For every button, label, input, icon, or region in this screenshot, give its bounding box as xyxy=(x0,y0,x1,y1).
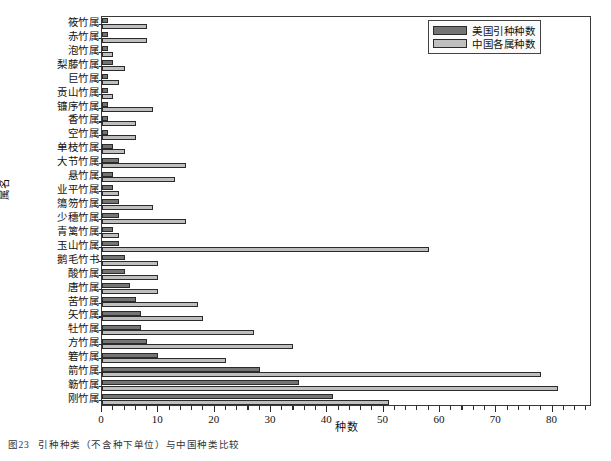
legend-entry-1: 中国各属种数 xyxy=(433,37,535,50)
y-axis-tick xyxy=(99,289,103,290)
bar-series-china xyxy=(102,24,147,29)
y-axis-tick xyxy=(99,400,103,401)
bar-series-us xyxy=(102,18,108,23)
y-axis-tick xyxy=(99,94,103,95)
x-axis-minor-tick xyxy=(202,406,203,410)
bar-series-china xyxy=(102,261,158,266)
bar-series-us xyxy=(102,311,141,316)
bar-series-china xyxy=(102,94,113,99)
x-axis-minor-tick xyxy=(484,406,485,410)
bar-series-china xyxy=(102,135,136,140)
bar-series-us xyxy=(102,325,141,330)
y-axis-category-label: 空竹属 xyxy=(4,128,99,139)
x-axis-minor-tick xyxy=(247,406,248,410)
y-axis-category-label: 镰序竹属 xyxy=(4,101,99,112)
bar-series-china xyxy=(102,205,153,210)
x-axis-minor-tick xyxy=(461,406,462,410)
y-axis-tick xyxy=(99,247,103,248)
bar-series-us xyxy=(102,380,299,385)
y-axis-tick xyxy=(99,303,103,304)
y-axis-category-label: 少穗竹属 xyxy=(4,212,99,223)
x-axis-minor-tick xyxy=(146,406,147,410)
y-axis-tick xyxy=(99,219,103,220)
bar-series-us xyxy=(102,60,113,65)
x-axis-minor-tick xyxy=(259,406,260,410)
y-axis-category-label: 青篱竹属 xyxy=(4,226,99,237)
y-axis-category-label: 业平竹属 xyxy=(4,184,99,195)
bar-series-china xyxy=(102,80,119,85)
x-axis-major-tick xyxy=(326,406,327,412)
y-axis-tick xyxy=(99,233,103,234)
x-axis-minor-tick xyxy=(529,406,530,410)
x-axis-minor-tick xyxy=(180,406,181,410)
x-axis-minor-tick xyxy=(338,406,339,410)
x-axis-minor-tick xyxy=(540,406,541,410)
x-axis-major-tick xyxy=(383,406,384,412)
x-axis-minor-tick xyxy=(405,406,406,410)
x-axis-minor-tick xyxy=(281,406,282,410)
x-axis-major-tick xyxy=(439,406,440,412)
y-axis-category-label: 牡竹属 xyxy=(4,323,99,334)
bars-layer xyxy=(102,17,590,405)
bar-series-china xyxy=(102,372,541,377)
y-axis-tick xyxy=(99,163,103,164)
x-axis-title: 种数 xyxy=(0,418,611,434)
x-axis-minor-tick xyxy=(191,406,192,410)
bar-series-us xyxy=(102,199,119,204)
y-axis-tick xyxy=(99,358,103,359)
y-axis-tick xyxy=(99,344,103,345)
x-axis-minor-tick xyxy=(518,406,519,410)
y-axis-category-label: 酸竹属 xyxy=(4,268,99,279)
x-axis-minor-tick xyxy=(236,406,237,410)
y-axis-tick xyxy=(99,386,103,387)
x-axis-minor-tick xyxy=(225,406,226,410)
bar-series-us xyxy=(102,227,113,232)
y-axis-category-label: 香竹属 xyxy=(4,114,99,125)
y-axis-category-label: 箬竹属 xyxy=(4,351,99,362)
bar-series-us xyxy=(102,241,119,246)
bar-series-us xyxy=(102,116,108,121)
bar-series-us xyxy=(102,158,119,163)
y-axis-category-label: 巨竹属 xyxy=(4,73,99,84)
x-axis-minor-tick xyxy=(574,406,575,410)
bar-series-china xyxy=(102,247,429,252)
bar-series-us xyxy=(102,144,113,149)
chart-legend: 美国引种种数 中国各属种数 xyxy=(428,20,541,54)
y-axis-tick xyxy=(99,205,103,206)
y-axis-tick xyxy=(99,52,103,53)
bar-series-china xyxy=(102,177,175,182)
y-axis-tick xyxy=(99,177,103,178)
x-axis-minor-tick xyxy=(585,406,586,410)
y-axis-tick xyxy=(99,80,103,81)
caption-text: 引种种类（不含种下单位）与中国种类比较 xyxy=(38,440,239,450)
x-axis-major-tick xyxy=(157,406,158,412)
x-axis-minor-tick xyxy=(135,406,136,410)
bar-series-china xyxy=(102,107,153,112)
x-axis-major-tick xyxy=(214,406,215,412)
x-axis-title-text: 种数 xyxy=(335,421,359,433)
x-axis-minor-tick xyxy=(394,406,395,410)
y-axis-tick xyxy=(99,149,103,150)
y-axis-category-label: 贡山竹属 xyxy=(4,87,99,98)
x-axis-minor-tick xyxy=(169,406,170,410)
y-axis-tick xyxy=(99,275,103,276)
x-axis-minor-tick xyxy=(428,406,429,410)
x-axis-minor-tick xyxy=(124,406,125,410)
x-axis-major-tick xyxy=(495,406,496,412)
bar-series-us xyxy=(102,339,147,344)
y-axis-category-label: 玉山竹属 xyxy=(4,240,99,251)
x-axis-minor-tick xyxy=(304,406,305,410)
bar-series-us xyxy=(102,74,108,79)
legend-swatch-light xyxy=(433,39,467,48)
bar-series-china xyxy=(102,289,158,294)
y-axis-tick xyxy=(99,108,103,109)
figure-caption: 图23引种种类（不含种下单位）与中国种类比较 xyxy=(8,437,240,451)
x-axis-minor-tick xyxy=(563,406,564,410)
x-axis-minor-tick xyxy=(112,406,113,410)
bar-series-china xyxy=(102,386,558,391)
y-axis-category-label: 悬竹属 xyxy=(4,170,99,181)
y-axis-category-label: 箭竹属 xyxy=(4,365,99,376)
x-axis-minor-tick xyxy=(450,406,451,410)
figure-container: 属名 筱竹属赤竹属泡竹属梨藤竹属巨竹属贡山竹属镰序竹属香竹属空竹属单枝竹属大节竹… xyxy=(0,0,611,461)
bar-series-us xyxy=(102,32,108,37)
